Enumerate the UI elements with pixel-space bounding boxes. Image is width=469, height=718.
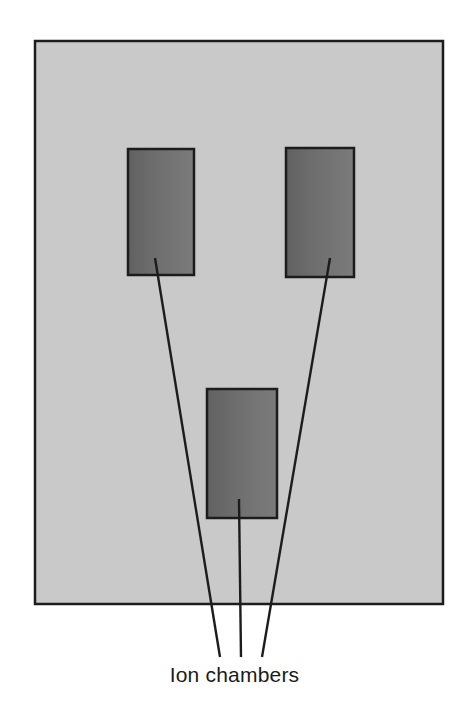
chamber-lower-center — [207, 389, 277, 518]
schematic-canvas — [0, 0, 469, 718]
figure-root: Ion chambers — [0, 0, 469, 718]
chamber-upper-left — [128, 149, 194, 275]
chamber-upper-right — [286, 148, 354, 277]
